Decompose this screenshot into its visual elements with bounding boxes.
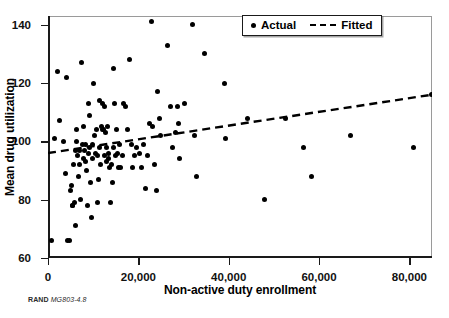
y-tick-label: 60 (18, 252, 31, 264)
x-tick-label: 40,000 (211, 271, 246, 283)
dashed-line-icon (310, 24, 336, 26)
data-point (192, 133, 197, 138)
data-point (245, 116, 250, 121)
filled-circle-icon (251, 23, 256, 28)
data-point (106, 151, 111, 156)
data-point (94, 127, 99, 132)
data-point (86, 101, 91, 106)
data-point (87, 145, 92, 150)
data-point (99, 124, 104, 129)
chart-legend: Actual Fitted (242, 15, 382, 36)
data-point (411, 145, 416, 150)
data-point (68, 188, 73, 193)
data-point (100, 101, 105, 106)
data-point (222, 81, 227, 86)
data-point (152, 162, 157, 167)
data-point (73, 223, 78, 228)
data-point (91, 81, 96, 86)
data-point (98, 162, 103, 167)
data-point (83, 159, 88, 164)
source-note-brand: RAND (28, 296, 49, 303)
data-point (155, 89, 160, 94)
data-point (83, 142, 88, 147)
data-point (63, 171, 68, 176)
data-point (154, 188, 159, 193)
plot-frame-right (431, 16, 432, 258)
x-tick: 80,000 (409, 258, 410, 265)
data-point (108, 200, 113, 205)
data-point (74, 139, 79, 144)
scatter-plot-figure: 6080100120140 020,00040,00060,00080,000 … (0, 0, 449, 318)
data-point (74, 127, 79, 132)
x-tick: 20,000 (138, 258, 139, 265)
data-point (202, 51, 207, 56)
data-point (143, 186, 148, 191)
data-point (223, 136, 228, 141)
data-point (86, 151, 91, 156)
data-point (84, 168, 89, 173)
data-point (73, 148, 78, 153)
data-point (69, 183, 74, 188)
data-point (111, 66, 116, 71)
y-tick: 100 (41, 141, 48, 142)
data-point (157, 116, 162, 121)
x-tick-label: 80,000 (392, 271, 427, 283)
data-point (149, 19, 154, 24)
data-point (112, 101, 117, 106)
data-point (116, 165, 121, 170)
data-point (134, 145, 139, 150)
data-point (95, 153, 100, 158)
plot-area: 6080100120140 020,00040,00060,00080,000 (48, 16, 432, 258)
data-point (70, 203, 75, 208)
fitted-trend-line (48, 16, 432, 258)
y-axis-line (48, 16, 50, 258)
data-point (71, 162, 76, 167)
data-point (96, 177, 101, 182)
data-point (158, 133, 163, 138)
y-tick: 60 (41, 258, 48, 259)
data-point (79, 60, 84, 65)
data-point (64, 75, 69, 80)
data-point (283, 116, 288, 121)
data-point (77, 162, 82, 167)
data-point (90, 142, 95, 147)
data-point (85, 203, 90, 208)
data-point (67, 238, 72, 243)
data-point (123, 104, 128, 109)
data-point (141, 142, 146, 147)
data-point (109, 162, 114, 167)
data-point (104, 159, 109, 164)
data-point (348, 133, 353, 138)
fitted-line-layer (48, 16, 432, 258)
data-point (110, 180, 115, 185)
data-point (103, 130, 108, 135)
data-point (81, 156, 86, 161)
x-tick: 60,000 (319, 258, 320, 265)
data-point (120, 153, 125, 158)
x-tick-label: 60,000 (301, 271, 336, 283)
source-note-ident: MG803-4.8 (51, 296, 87, 303)
data-point (97, 98, 102, 103)
data-point (75, 153, 80, 158)
data-point (118, 165, 123, 170)
data-point (125, 127, 130, 132)
data-point (137, 151, 142, 156)
legend-label-actual: Actual (261, 19, 296, 31)
data-point (57, 118, 62, 123)
y-tick: 140 (41, 25, 48, 26)
y-tick: 80 (41, 200, 48, 201)
data-point (78, 197, 83, 202)
data-point (117, 142, 122, 147)
data-point (114, 127, 119, 132)
data-point (190, 22, 195, 27)
data-point (170, 145, 175, 150)
data-point (194, 174, 199, 179)
data-point (90, 156, 95, 161)
data-point (105, 124, 110, 129)
data-point (88, 180, 93, 185)
data-point (150, 124, 155, 129)
data-point (104, 145, 109, 150)
x-axis-line (48, 256, 432, 258)
x-tick-label: 20,000 (121, 271, 156, 283)
data-point (107, 165, 112, 170)
